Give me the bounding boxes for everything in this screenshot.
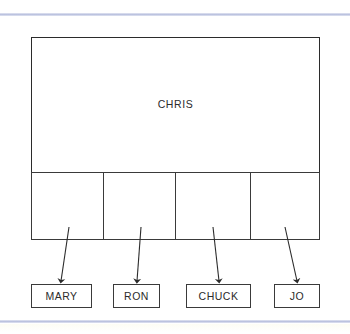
- bottom-page-haze: [0, 324, 350, 332]
- top-divider-rule: [0, 13, 350, 16]
- child-cell-strip: [31, 172, 320, 240]
- leaf-box-mary: MARY: [31, 284, 92, 308]
- child-cell-1: [104, 173, 176, 239]
- child-cell-0: [32, 173, 104, 239]
- parent-entity-label: CHRIS: [31, 98, 320, 110]
- child-cell-3: [251, 173, 319, 239]
- leaf-box-ron: RON: [113, 284, 160, 308]
- bottom-divider-rule: [0, 320, 350, 323]
- diagram-canvas: CHRIS MARY RON CHUCK JO: [0, 0, 350, 334]
- leaf-box-jo: JO: [274, 284, 320, 308]
- leaf-box-chuck: CHUCK: [186, 284, 251, 308]
- child-cell-2: [176, 173, 251, 239]
